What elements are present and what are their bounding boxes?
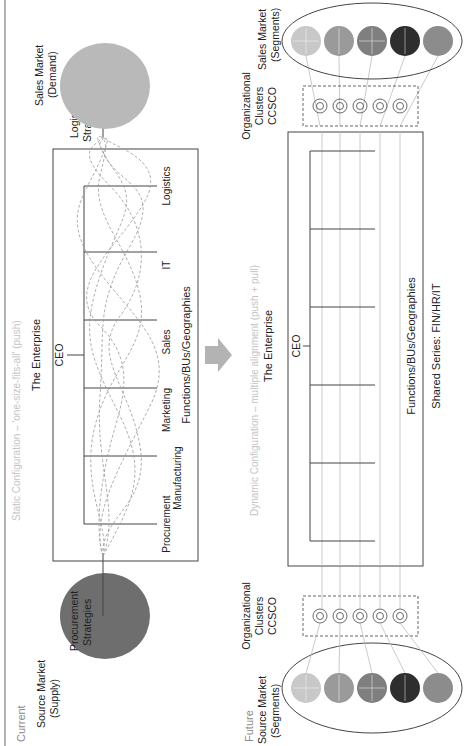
left-clusters-l1: Organizational <box>240 582 252 650</box>
current-enterprise-title: The Enterprise <box>30 319 42 391</box>
current-label: Current <box>15 705 27 742</box>
right-clusters-l3: CCSCO <box>266 87 278 125</box>
current-panel: Current Source Market (Supply) Procureme… <box>5 0 198 746</box>
current-functions-caption: Functions/BUs/Geographies <box>180 286 192 424</box>
sales-market-ellipse <box>60 43 150 129</box>
right-clusters-l2: Clusters <box>253 87 265 126</box>
future-subtitle: Dynamic Configuration – multiple alignme… <box>249 265 260 516</box>
future-sales-market-sub: (Segments) <box>269 8 281 62</box>
right-cluster-nodes <box>313 99 407 113</box>
future-ceo: CEO <box>290 335 302 358</box>
source-market-label: Source Market <box>35 660 47 728</box>
diagram-stage: Current Source Market (Supply) Procureme… <box>0 0 471 746</box>
procurement-strategies-l2: Strategies <box>81 599 93 646</box>
right-clusters-box <box>303 86 418 126</box>
shared-series: Shared Series: FIN/HR/IT <box>430 283 442 409</box>
sales-market-sub: (Demand) <box>46 51 58 98</box>
function-marketing: Marketing <box>161 388 172 432</box>
future-sales-market-label: Sales Market <box>256 9 268 70</box>
right-clusters-l1: Organizational <box>240 72 252 140</box>
sales-market-label: Sales Market <box>33 45 45 106</box>
future-label: Future <box>243 710 255 742</box>
current-ceo: CEO <box>53 344 65 367</box>
sales-segments <box>291 26 453 56</box>
current-subtitle: Static Configuration – 'one-size-fits-al… <box>11 320 22 521</box>
left-clusters-box <box>303 596 418 636</box>
left-cluster-nodes <box>313 609 407 623</box>
strategy-dashed-lines <box>77 136 159 556</box>
function-procurement: Procurement <box>161 495 172 552</box>
future-enterprise-title: The Enterprise <box>262 310 274 382</box>
future-enterprise-frame <box>288 132 423 566</box>
future-source-market-sub: (Segments) <box>269 684 281 738</box>
source-market-sub: (Supply) <box>48 679 60 718</box>
arrow-down-icon <box>205 338 232 372</box>
function-it: IT <box>161 261 172 270</box>
function-stems <box>84 186 157 524</box>
left-clusters-l3: CCSCO <box>266 597 278 635</box>
future-functions-caption: Functions/BUs/Geographies <box>405 277 417 415</box>
function-sales: Sales <box>161 329 172 354</box>
transition-arrow <box>205 338 232 372</box>
left-clusters-l2: Clusters <box>253 597 265 636</box>
source-segments <box>291 673 453 703</box>
procurement-strategies-l1: Procurement <box>68 591 80 651</box>
function-manufacturing: Manufacturing <box>172 446 183 509</box>
future-panel: Future Dynamic Configuration – multiple … <box>240 3 462 744</box>
future-source-market-label: Source Market <box>256 676 268 744</box>
function-logistics: Logistics <box>161 167 172 206</box>
